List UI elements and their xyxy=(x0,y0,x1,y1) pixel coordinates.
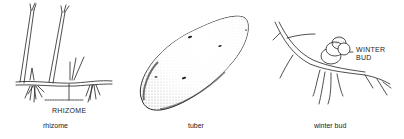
tuber-panel: tuber xyxy=(130,0,270,139)
winter-bud-callout: WINTER BUD xyxy=(356,46,385,62)
winter-bud-caption: winter bud xyxy=(314,122,346,129)
winter-bud-callout-line1: WINTER xyxy=(356,46,385,54)
winter-bud-panel: WINTER BUD winter bud xyxy=(265,0,404,139)
tuber-illustration xyxy=(130,0,270,139)
rhizome-panel: RHIZOME rhizome xyxy=(0,0,135,139)
tuber-caption: tuber xyxy=(188,122,204,129)
rhizome-caption: rhizome xyxy=(43,122,68,129)
rhizome-callout: RHIZOME xyxy=(52,107,86,115)
rhizome-illustration xyxy=(0,0,135,139)
winter-bud-callout-line2: BUD xyxy=(356,54,385,62)
winter-bud-illustration xyxy=(265,0,404,139)
